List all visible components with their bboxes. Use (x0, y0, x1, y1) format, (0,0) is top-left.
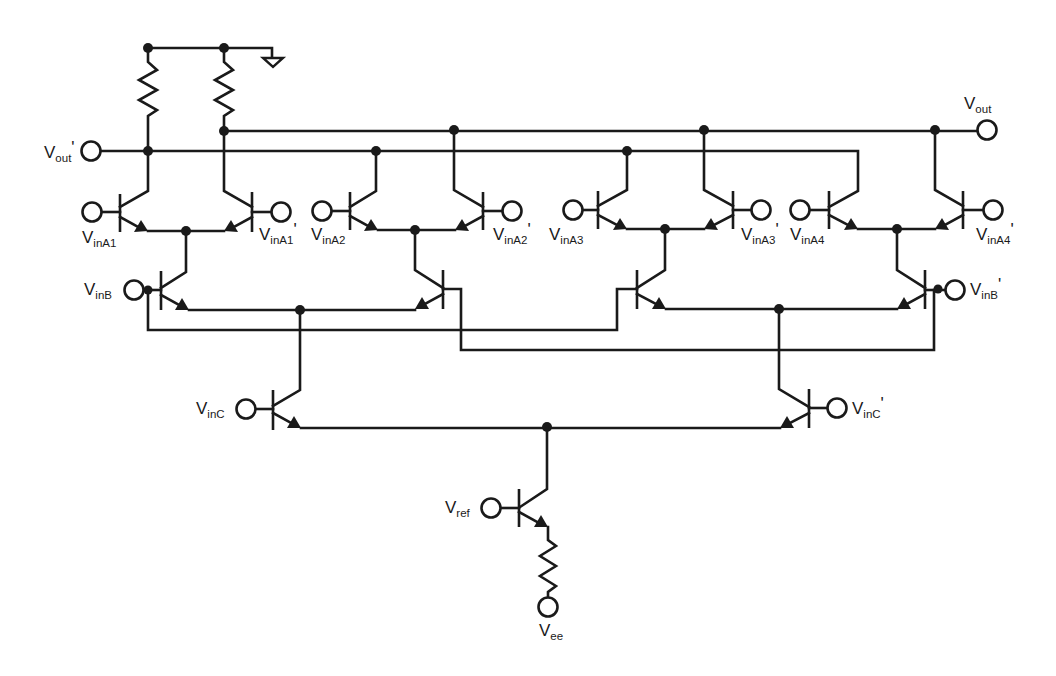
port-vina1-prime (272, 203, 291, 222)
port-vinb (125, 281, 144, 300)
transistor-qa4 (810, 191, 858, 230)
port-vina3 (564, 201, 583, 220)
label-vina4: VinA4 (790, 225, 825, 246)
label-vinb-prime: VinB' (970, 275, 1001, 301)
transistor-qc-prime (779, 309, 827, 428)
ground-rail (143, 43, 283, 67)
label-vref: Vref (445, 498, 471, 519)
label-vina1-prime: VinA1' (259, 220, 297, 246)
port-vinb-prime (946, 281, 965, 300)
port-vout (978, 121, 997, 140)
transistor-qa3-prime (704, 130, 751, 230)
transistor-qref (501, 427, 548, 527)
label-vinb: VinB (84, 280, 112, 301)
transistor-qa2 (332, 151, 378, 231)
port-vina2 (313, 202, 332, 221)
port-vina4 (791, 201, 810, 220)
vout-prime-rail (101, 146, 858, 207)
port-vref (482, 499, 501, 518)
port-vinc-prime (828, 399, 847, 418)
port-vina3-prime (752, 201, 771, 220)
label-vout: Vout (964, 94, 992, 115)
label-vina1: VinA1 (82, 228, 116, 249)
circuit-schematic: Vout Vout' VinA1 VinA1' VinA2 VinA2' Vin… (0, 0, 1056, 676)
port-vina1 (83, 203, 102, 222)
transistor-qa2-prime (454, 130, 502, 231)
transistor-qb2-prime (897, 229, 945, 309)
load-resistor-left (139, 48, 157, 151)
transistor-qa1 (102, 151, 148, 232)
port-vee (539, 598, 558, 617)
transistor-qb1-prime (415, 230, 934, 350)
transistor-qb1 (148, 231, 189, 310)
label-vinc-prime: VinC' (852, 394, 884, 420)
label-vina2-prime: VinA2' (493, 220, 531, 246)
label-vina3-prime: VinA3' (741, 220, 779, 246)
label-vina2: VinA2 (311, 225, 345, 246)
transistor-qc (256, 310, 301, 430)
label-vina4-prime: VinA4' (976, 220, 1014, 246)
label-vee: Vee (539, 621, 563, 642)
port-vina4-prime (984, 201, 1003, 220)
tail-resistor (540, 527, 556, 597)
port-vina2-prime (503, 202, 522, 221)
port-vinc (237, 400, 256, 419)
load-resistor-right (215, 48, 233, 131)
transistor-qa3 (583, 151, 627, 230)
vout-rail (219, 125, 977, 136)
label-vout-prime: Vout' (44, 138, 75, 164)
transistor-qb2 (637, 229, 666, 309)
label-vina3: VinA3 (549, 225, 583, 246)
transistor-qa4-prime (935, 130, 983, 230)
label-vinc: VinC (196, 399, 225, 420)
port-vout-prime (82, 142, 101, 161)
ground-icon (263, 58, 283, 67)
